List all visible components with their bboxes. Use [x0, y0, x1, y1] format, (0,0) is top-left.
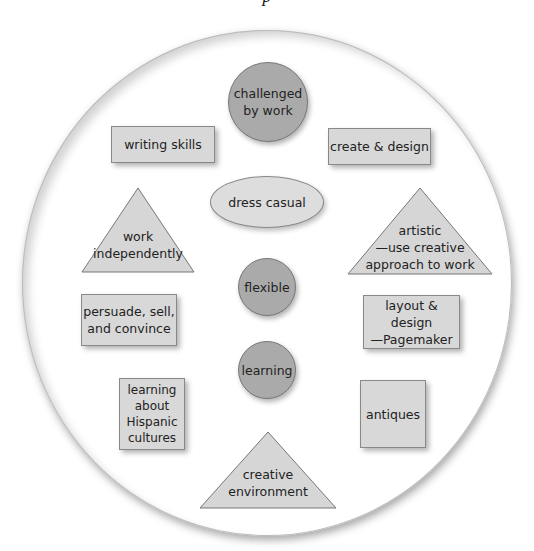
node-create-and-design: create & design [328, 128, 431, 165]
node-learning: learning [238, 341, 296, 399]
node-label: learning [242, 362, 293, 379]
node-work-independently: work independently [80, 186, 196, 274]
node-label: environment [198, 483, 338, 500]
node-flexible: flexible [238, 258, 296, 316]
node-label: persuade, sell, [83, 303, 175, 320]
node-label: approach to work [346, 256, 494, 273]
node-label: writing skills [124, 136, 202, 153]
node-label: challenged [234, 85, 303, 102]
node-label: independently [80, 245, 196, 262]
node-learning-hispanic-cultures: learningaboutHispaniccultures [119, 378, 185, 450]
node-label: and convince [83, 320, 175, 337]
node-label: learning [126, 382, 177, 398]
node-challenged-by-work: challengedby work [228, 62, 308, 142]
node-label: cultures [126, 430, 177, 446]
node-layout-and-design: layout & design—Pagemaker [363, 295, 460, 349]
node-label: create & design [330, 138, 429, 155]
node-label: antiques [366, 406, 420, 423]
node-label: —use creative [346, 239, 494, 256]
node-label: artistic [346, 222, 494, 239]
node-label: —Pagemaker [364, 331, 459, 348]
node-label: creative [198, 466, 338, 483]
node-label: layout & design [364, 297, 459, 331]
node-writing-skills: writing skills [111, 126, 215, 163]
node-label: work [80, 228, 196, 245]
cropped-header-text: p [0, 0, 534, 7]
node-label: Hispanic [126, 414, 177, 430]
node-label: flexible [244, 279, 289, 296]
node-creative-environment: creative environment [198, 430, 338, 510]
node-dress-casual: dress casual [210, 176, 324, 228]
node-label: by work [234, 102, 303, 119]
node-artistic: artistic —use creative approach to work [346, 186, 494, 276]
node-label: dress casual [228, 194, 306, 211]
node-label: about [126, 398, 177, 414]
node-antiques: antiques [360, 380, 426, 448]
node-persuade-sell-convince: persuade, sell,and convince [81, 294, 177, 346]
